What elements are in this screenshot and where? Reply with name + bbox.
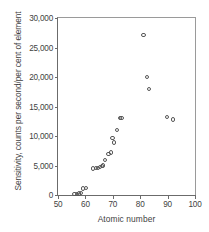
x-axis-tick-label: 90 [163, 200, 172, 209]
x-axis-tick [195, 195, 196, 199]
y-axis-tick [55, 48, 59, 49]
y-axis-tick [55, 136, 59, 137]
data-point [79, 191, 83, 195]
data-point [171, 117, 175, 121]
x-axis-tick-label: 100 [188, 200, 201, 209]
plot-area: 05,00010,00015,00020,00025,00030,0005060… [57, 17, 196, 196]
x-axis-tick [85, 195, 86, 199]
y-axis-tick-label: 5,000 [34, 161, 54, 170]
x-axis-tick-label: 70 [108, 200, 117, 209]
y-axis-tick [55, 77, 59, 78]
y-axis-tick-label: 10,000 [29, 132, 53, 141]
data-point [112, 140, 116, 144]
x-axis-tick-label: 60 [81, 200, 90, 209]
y-axis-tick [55, 166, 59, 167]
data-point [101, 163, 105, 167]
data-point [145, 75, 149, 79]
data-point [103, 158, 107, 162]
y-axis-tick [55, 107, 59, 108]
x-axis-tick [113, 195, 114, 199]
scatter-chart-figure: 05,00010,00015,00020,00025,00030,0005060… [0, 0, 209, 232]
y-axis-tick-label: 25,000 [29, 43, 53, 52]
data-point [141, 33, 145, 37]
x-axis-tick-label: 50 [54, 200, 63, 209]
data-point [84, 186, 88, 190]
x-axis-tick [58, 195, 59, 199]
data-point [109, 150, 113, 154]
y-axis-tick-label: 30,000 [29, 14, 53, 23]
x-axis-tick [140, 195, 141, 199]
x-axis-label: Atomic number [57, 214, 196, 224]
data-point [115, 128, 119, 132]
data-points-layer [58, 18, 195, 195]
y-axis-tick-label: 20,000 [29, 73, 53, 82]
y-axis-tick-label: 0 [49, 191, 53, 200]
x-axis-tick [168, 195, 169, 199]
x-axis-tick-label: 80 [136, 200, 145, 209]
data-point [147, 87, 151, 91]
y-axis-tick-label: 15,000 [29, 102, 53, 111]
y-axis-tick [55, 18, 59, 19]
y-axis-label: Sensitivity, counts per second/per cent … [13, 6, 23, 196]
data-point [119, 116, 123, 120]
data-point [165, 115, 169, 119]
data-point [110, 136, 114, 140]
